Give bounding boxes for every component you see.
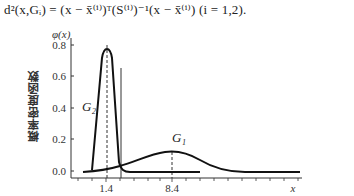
g2-label: G₂ [82, 99, 96, 114]
y-tick-0.8: 0.8 [52, 39, 66, 51]
y-tick-0.2: 0.2 [52, 133, 66, 145]
y-axis-label: 概率密度函数 [27, 70, 41, 142]
g1-density-curve [83, 151, 300, 172]
density-chart: 0.8 0.6 0.4 0.2 0.0 φ(x) 1.4 8.4 x G₂ [0, 0, 354, 196]
y-tick-labels: 0.8 0.6 0.4 0.2 0.0 [52, 39, 66, 177]
y-axis-symbol: φ(x) [52, 28, 71, 41]
x-tick-1.4: 1.4 [99, 182, 113, 194]
x-axis-label: x [290, 182, 296, 194]
y-tick-0.0: 0.0 [52, 165, 66, 177]
x-tick-8.4: 8.4 [165, 182, 179, 194]
y-tick-0.4: 0.4 [52, 102, 66, 114]
g1-label: G₁ [172, 130, 186, 145]
y-tick-0.6: 0.6 [52, 70, 66, 82]
